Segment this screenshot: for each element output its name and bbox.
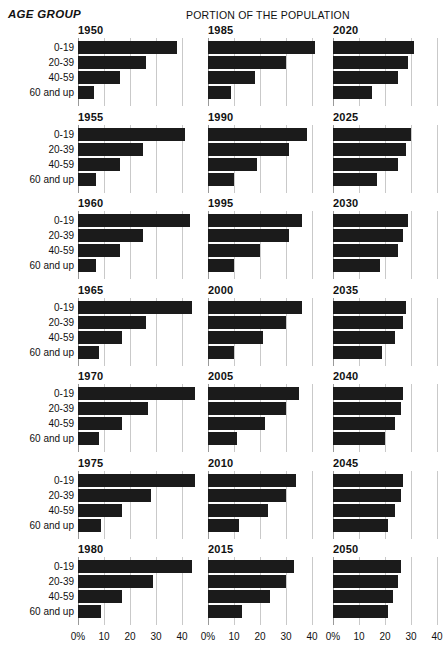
panel-title-1990: 1990	[190, 111, 315, 125]
bar-row-2050-20-39	[333, 575, 437, 588]
bar-row-2040-20-39	[333, 402, 437, 415]
bar-row-1990-20-39	[208, 143, 312, 156]
bar-1985-20-39	[208, 56, 286, 69]
bar-2015-60-and-up	[208, 605, 242, 618]
bar-row-2025-20-39	[333, 143, 437, 156]
bar-row-1975-20-39	[78, 489, 182, 502]
x-axis-column-1: 0%10203040	[78, 630, 182, 646]
plot-area-2035	[333, 298, 437, 366]
gridline-40	[437, 211, 438, 279]
bars	[208, 38, 312, 106]
bar-2000-60-and-up	[208, 346, 234, 359]
bar-row-2010-60-and-up	[208, 519, 312, 532]
age-label-20-39: 20-39	[0, 491, 74, 501]
age-label-20-39: 20-39	[0, 404, 74, 414]
bar-row-2005-60-and-up	[208, 432, 312, 445]
bar-2000-0-19	[208, 301, 302, 314]
bar-row-2015-20-39	[208, 575, 312, 588]
bar-row-2000-60-and-up	[208, 346, 312, 359]
panel-column-3: 20202025203020352040204520500%10203040	[315, 24, 441, 646]
bar-2010-20-39	[208, 489, 286, 502]
gridline-40	[312, 298, 313, 366]
plot-area-1995	[208, 211, 312, 279]
bar-row-2020-20-39	[333, 56, 437, 69]
plot-area-2000	[208, 298, 312, 366]
axis-tick-20: 20	[124, 631, 135, 642]
age-label-60-and-up: 60 and up	[0, 175, 74, 185]
bar-row-2040-60-and-up	[333, 432, 437, 445]
bar-row-1970-0-19	[78, 387, 182, 400]
panel-1985: 1985	[190, 24, 315, 111]
bar-row-2015-60-and-up	[208, 605, 312, 618]
axis-tick-30: 30	[280, 631, 291, 642]
bar-row-2005-20-39	[208, 402, 312, 415]
bar-1975-60-and-up	[78, 519, 101, 532]
bar-2010-40-59	[208, 504, 268, 517]
bar-row-1995-40-59	[208, 244, 312, 257]
bar-row-1960-60-and-up	[78, 259, 182, 272]
panel-1980: 19800-1920-3940-5960 and up	[0, 543, 190, 630]
bar-row-1970-60-and-up	[78, 432, 182, 445]
bar-1970-20-39	[78, 402, 148, 415]
panel-2045: 2045	[315, 457, 441, 544]
bar-row-1950-20-39	[78, 56, 182, 69]
panel-column-1: 19500-1920-3940-5960 and up19550-1920-39…	[0, 24, 190, 646]
chart-title: PORTION OF THE POPULATION	[186, 9, 350, 21]
age-label-40-59: 40-59	[0, 73, 74, 83]
axis-tick-0: 0%	[201, 631, 215, 642]
bar-1990-60-and-up	[208, 173, 234, 186]
age-label-0-19: 0-19	[0, 43, 74, 53]
bar-row-2030-0-19	[333, 214, 437, 227]
bar-row-1955-40-59	[78, 158, 182, 171]
panel-1990: 1990	[190, 111, 315, 198]
panel-1960: 19600-1920-3940-5960 and up	[0, 197, 190, 284]
bar-2030-40-59	[333, 244, 398, 257]
age-label-60-and-up: 60 and up	[0, 607, 74, 617]
bars	[78, 125, 182, 193]
bar-2035-40-59	[333, 331, 395, 344]
axis-tick-10: 10	[228, 631, 239, 642]
panel-title-1950: 1950	[0, 24, 190, 38]
plot-area-2040	[333, 384, 437, 452]
panel-title-2000: 2000	[190, 284, 315, 298]
bars	[208, 211, 312, 279]
bar-row-1985-0-19	[208, 41, 312, 54]
plot-area-1990	[208, 125, 312, 193]
bar-1975-40-59	[78, 504, 122, 517]
panel-2030: 2030	[315, 197, 441, 284]
age-label-40-59: 40-59	[0, 333, 74, 343]
bar-row-1985-60-and-up	[208, 86, 312, 99]
bars	[333, 38, 437, 106]
panel-1950: 19500-1920-3940-5960 and up	[0, 24, 190, 111]
bar-row-2020-40-59	[333, 71, 437, 84]
bar-2010-0-19	[208, 474, 296, 487]
panel-2020: 2020	[315, 24, 441, 111]
bar-2030-0-19	[333, 214, 408, 227]
bar-row-1950-40-59	[78, 71, 182, 84]
panel-title-2025: 2025	[315, 111, 441, 125]
panel-title-1985: 1985	[190, 24, 315, 38]
age-label-40-59: 40-59	[0, 592, 74, 602]
age-label-60-and-up: 60 and up	[0, 348, 74, 358]
age-label-20-39: 20-39	[0, 58, 74, 68]
panel-title-2020: 2020	[315, 24, 441, 38]
bar-row-1975-0-19	[78, 474, 182, 487]
bar-2035-60-and-up	[333, 346, 382, 359]
axis-tick-30: 30	[150, 631, 161, 642]
bar-row-2030-60-and-up	[333, 259, 437, 272]
bar-row-1960-40-59	[78, 244, 182, 257]
bar-row-2025-60-and-up	[333, 173, 437, 186]
bar-2045-20-39	[333, 489, 401, 502]
bar-2050-60-and-up	[333, 605, 388, 618]
bars	[78, 211, 182, 279]
bar-2025-0-19	[333, 128, 411, 141]
plot-area-2030	[333, 211, 437, 279]
bars	[78, 471, 182, 539]
axis-tick-10: 10	[98, 631, 109, 642]
bar-row-1965-20-39	[78, 316, 182, 329]
bar-1995-60-and-up	[208, 259, 234, 272]
bar-2025-20-39	[333, 143, 406, 156]
bar-1970-60-and-up	[78, 432, 99, 445]
bar-row-1965-40-59	[78, 331, 182, 344]
bars	[78, 298, 182, 366]
